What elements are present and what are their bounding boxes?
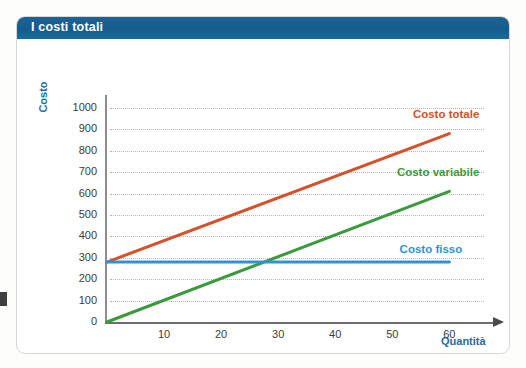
series-label-costo-fisso: Costo fisso	[352, 243, 462, 255]
chart-plot-area: Costo Quantità 0100200300400500600700800…	[17, 39, 510, 354]
series-line-costo-variabile	[107, 191, 449, 322]
scan-edge-artifact	[0, 292, 7, 306]
chart-card: I costi totali Costo Quantità 0100200300…	[16, 16, 510, 354]
x-axis-arrow-icon	[493, 316, 509, 330]
chart-title: I costi totali	[31, 20, 103, 34]
series-label-costo-variabile: Costo variabile	[369, 166, 479, 178]
chart-title-bar: I costi totali	[17, 17, 510, 39]
series-label-costo-totale: Costo totale	[369, 108, 479, 120]
series-lines	[17, 39, 510, 354]
